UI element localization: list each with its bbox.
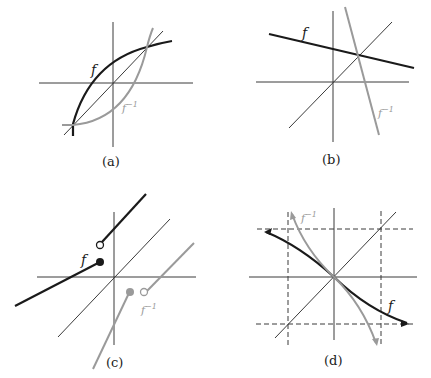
- f-inverse-label: f−1: [140, 302, 157, 317]
- arrow-right-f: [401, 320, 409, 327]
- caption-b: (b): [322, 152, 340, 167]
- line-f-lower: [15, 262, 100, 306]
- caption-a: (a): [102, 154, 120, 169]
- closed-dot-f-inverse: [126, 288, 134, 296]
- line-f: [269, 34, 414, 68]
- panel-b: f f−1 (b): [256, 7, 414, 167]
- open-dot-f-inverse: [141, 289, 148, 296]
- panel-d: f f−1 (d): [249, 208, 417, 368]
- inverse-functions-figure: f f−1 (a) f f−1 (b) f f−1 (c): [0, 0, 431, 378]
- f-label: f: [80, 252, 89, 268]
- f-label: f: [387, 298, 396, 314]
- closed-dot-f: [96, 258, 104, 266]
- line-f-upper: [102, 194, 146, 242]
- f-inverse-label: f−1: [300, 210, 317, 225]
- panel-a: f f−1 (a): [39, 22, 193, 169]
- arrow-down-f-inverse: [372, 338, 379, 346]
- f-inverse-label: f−1: [377, 105, 394, 120]
- line-f-inverse: [345, 7, 379, 135]
- panel-c: f f−1 (c): [15, 194, 196, 370]
- caption-d: (d): [324, 353, 342, 368]
- f-inverse-label: f−1: [121, 100, 138, 115]
- curve-f-inverse: [62, 28, 153, 125]
- f-label: f: [301, 25, 310, 41]
- line-y-equals-x: [275, 212, 396, 338]
- open-dot-f: [97, 242, 104, 249]
- arrow-up-f-inverse: [290, 211, 296, 220]
- caption-c: (c): [106, 355, 123, 370]
- line-f-inverse-upper: [146, 243, 194, 292]
